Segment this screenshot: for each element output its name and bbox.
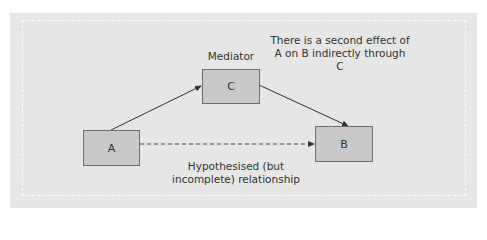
node-a-label: A (108, 142, 116, 155)
node-a: A (83, 130, 140, 166)
arrow-a-to-c (111, 86, 201, 130)
note-line-1: There is a second effect of (270, 34, 410, 47)
hypothesised-line-1: Hypothesised (but (166, 160, 306, 173)
node-c-label: C (227, 80, 235, 93)
mediator-label: Mediator (200, 50, 262, 63)
node-b-label: B (340, 138, 348, 151)
indirect-effect-note: There is a second effect of A on B indir… (270, 34, 410, 73)
node-c: C (202, 69, 260, 104)
note-line-3: C (270, 60, 410, 73)
note-line-2: A on B indirectly through (270, 47, 410, 60)
hypothesised-line-2: incomplete) relationship (166, 173, 306, 186)
arrow-c-to-b (259, 85, 348, 126)
node-b: B (315, 126, 373, 162)
hypothesised-relationship-label: Hypothesised (but incomplete) relationsh… (166, 160, 306, 186)
